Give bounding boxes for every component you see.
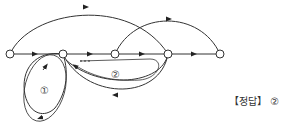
branch-3-5 xyxy=(115,21,220,54)
node-2 xyxy=(59,50,67,58)
node-1 xyxy=(6,50,14,58)
loop-label-2: ② xyxy=(111,69,120,80)
loop-label-1: ① xyxy=(40,85,49,96)
node-3 xyxy=(111,50,119,58)
answer-label: 【정답】 ② xyxy=(229,93,279,108)
node-4 xyxy=(164,50,172,58)
branch-1-4 xyxy=(10,15,168,54)
node-5 xyxy=(216,50,224,58)
